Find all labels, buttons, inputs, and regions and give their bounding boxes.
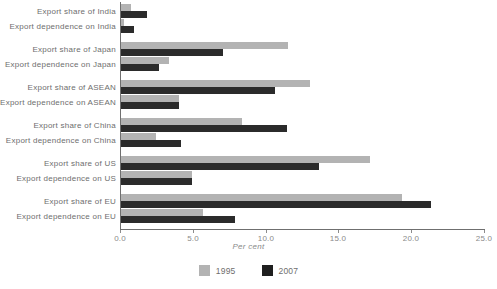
x-tick-2 bbox=[266, 230, 267, 233]
category-label-3: Export dependence on Japan bbox=[5, 60, 116, 69]
bar-2007-1 bbox=[121, 26, 134, 33]
bar-1995-10 bbox=[121, 194, 402, 201]
bar-2007-5 bbox=[121, 102, 179, 109]
bar-1995-11 bbox=[121, 209, 203, 216]
legend-item-2007[interactable]: 2007 bbox=[262, 265, 299, 276]
bar-2007-2 bbox=[121, 49, 223, 56]
category-label-9: Export dependence on US bbox=[16, 174, 116, 183]
legend-swatch-2007-icon bbox=[262, 265, 273, 276]
bar-1995-5 bbox=[121, 95, 179, 102]
legend-swatch-1995-icon bbox=[199, 265, 210, 276]
x-tick-0 bbox=[120, 230, 121, 233]
category-label-8: Export share of US bbox=[44, 159, 116, 168]
category-label-6: Export share of China bbox=[33, 121, 116, 130]
category-label-4: Export share of ASEAN bbox=[28, 83, 116, 92]
category-label-11: Export dependence on EU bbox=[16, 212, 116, 221]
bar-2007-4 bbox=[121, 87, 275, 94]
chart-legend: 1995 2007 bbox=[0, 265, 497, 276]
bar-1995-4 bbox=[121, 80, 310, 87]
bar-2007-7 bbox=[121, 140, 181, 147]
category-label-1: Export dependence on India bbox=[9, 22, 116, 31]
bar-1995-8 bbox=[121, 156, 370, 163]
bar-1995-2 bbox=[121, 42, 288, 49]
x-tick-5 bbox=[484, 230, 485, 233]
x-axis-line bbox=[120, 229, 485, 230]
x-tick-4 bbox=[411, 230, 412, 233]
legend-label-1995: 1995 bbox=[216, 266, 236, 276]
bar-2007-8 bbox=[121, 163, 319, 170]
bar-2007-6 bbox=[121, 125, 287, 132]
bar-2007-10 bbox=[121, 201, 431, 208]
category-label-5: Export dependence on ASEAN bbox=[0, 98, 116, 107]
category-label-0: Export share of India bbox=[37, 7, 116, 16]
bar-2007-11 bbox=[121, 216, 235, 223]
bar-1995-0 bbox=[121, 4, 131, 11]
x-tick-1 bbox=[193, 230, 194, 233]
bar-1995-6 bbox=[121, 118, 242, 125]
bar-1995-1 bbox=[121, 19, 124, 26]
x-tick-3 bbox=[338, 230, 339, 233]
category-label-7: Export dependence on China bbox=[6, 136, 116, 145]
bar-2007-0 bbox=[121, 11, 147, 18]
bar-1995-3 bbox=[121, 57, 169, 64]
legend-label-2007: 2007 bbox=[279, 266, 299, 276]
legend-item-1995[interactable]: 1995 bbox=[199, 265, 236, 276]
bar-1995-7 bbox=[121, 133, 156, 140]
bar-2007-9 bbox=[121, 178, 192, 185]
category-label-10: Export share of EU bbox=[44, 197, 116, 206]
bar-1995-9 bbox=[121, 171, 192, 178]
bar-2007-3 bbox=[121, 64, 159, 71]
export-share-dependence-bar-chart: 0.05.010.015.020.025.0 Export share of I… bbox=[0, 0, 497, 289]
category-label-2: Export share of Japan bbox=[32, 45, 116, 54]
x-axis-title: Per cent bbox=[0, 242, 497, 251]
